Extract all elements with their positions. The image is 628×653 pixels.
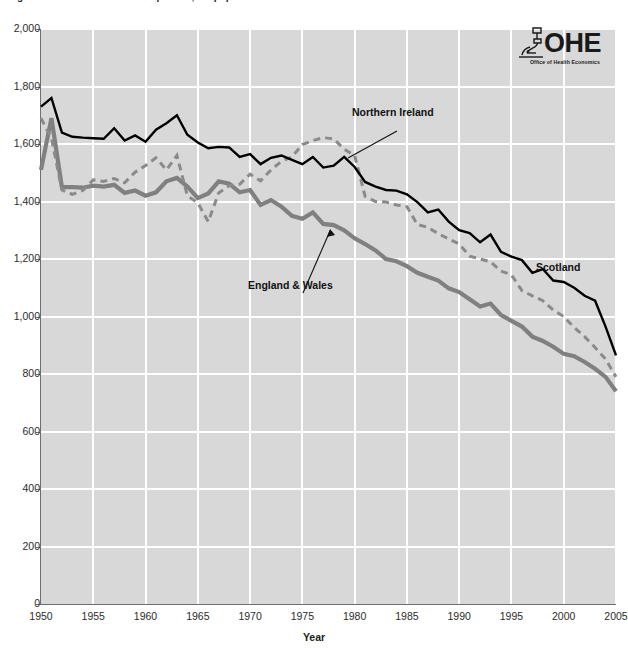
y-axis-tick-label: 1,800 <box>0 81 40 92</box>
y-axis-tick-label: 400 <box>0 483 40 494</box>
y-axis-tick-label: 2,000 <box>0 23 40 34</box>
x-axis-tick-label: 1950 <box>16 610 66 622</box>
x-axis-title: Year <box>0 631 628 643</box>
ohe-logo: OHE Office of Health Economics <box>516 26 612 72</box>
microscope-icon <box>516 26 546 60</box>
y-axis-tick-label: 0 <box>0 598 40 609</box>
y-axis-tick-label: 800 <box>0 368 40 379</box>
logo-subtitle: Office of Health Economics <box>518 59 612 65</box>
x-axis-tick-label: 1970 <box>225 610 275 622</box>
chart-title-clipped: Figure: Deaths from all causes per 100,0… <box>8 0 528 5</box>
y-axis-tick-label: 600 <box>0 426 40 437</box>
x-axis-tick-label: 1955 <box>68 610 118 622</box>
annotation-leader-lines <box>41 29 616 604</box>
series-label-northern-ireland: Northern Ireland <box>352 106 434 118</box>
x-axis-tick-label: 1960 <box>121 610 171 622</box>
x-axis-tick-label: 1990 <box>434 610 484 622</box>
series-label-scotland: Scotland <box>536 261 580 273</box>
y-axis-tick-label: 200 <box>0 541 40 552</box>
x-axis-tick-label: 1975 <box>277 610 327 622</box>
y-axis-tick-label: 1,400 <box>0 196 40 207</box>
x-axis-tick-label: 1985 <box>382 610 432 622</box>
x-axis-tick-label: 2000 <box>539 610 589 622</box>
x-axis-tick-label: 2005 <box>591 610 628 622</box>
logo-wordmark: OHE <box>544 28 601 59</box>
x-axis-line <box>40 604 616 605</box>
x-axis-tick-label: 1980 <box>330 610 380 622</box>
x-axis-tick-label: 1965 <box>173 610 223 622</box>
y-axis-tick-label: 1,200 <box>0 253 40 264</box>
y-axis-tick-label: 1,000 <box>0 311 40 322</box>
y-axis-tick-label: 1,600 <box>0 138 40 149</box>
chart-root: Figure: Deaths from all causes per 100,0… <box>0 0 628 653</box>
series-label-england-wales: England & Wales <box>248 279 333 291</box>
x-axis-tick-label: 1995 <box>486 610 536 622</box>
